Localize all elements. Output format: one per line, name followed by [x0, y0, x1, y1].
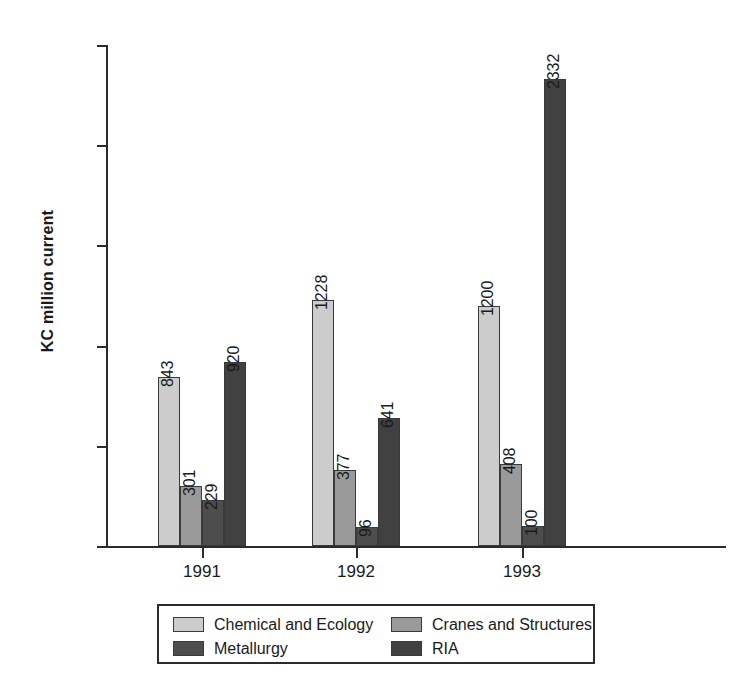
- legend-item[interactable]: Cranes and Structures: [391, 616, 583, 633]
- legend-item[interactable]: Chemical and Ecology: [173, 616, 391, 633]
- legend-label: Metallurgy: [214, 640, 288, 657]
- x-axis-tick: [356, 548, 358, 558]
- bar: [334, 470, 356, 546]
- y-axis-tick: [97, 346, 106, 348]
- bar: [378, 418, 400, 546]
- bar: [224, 362, 246, 546]
- bar-value-label: 1228: [314, 275, 330, 310]
- legend-label: Cranes and Structures: [432, 616, 592, 633]
- y-axis-line: [106, 45, 108, 548]
- legend-item[interactable]: Metallurgy: [173, 640, 391, 657]
- bar-value-label: 1200: [480, 280, 496, 315]
- bar: [158, 377, 180, 546]
- bar-value-label: 2332: [546, 53, 562, 88]
- bar-value-label: 641: [380, 401, 396, 427]
- x-axis-tick: [202, 548, 204, 558]
- legend-label: Chemical and Ecology: [214, 616, 373, 633]
- x-axis-tick-label: 1992: [311, 562, 401, 582]
- legend-swatch: [391, 617, 422, 632]
- bar: [312, 300, 334, 546]
- y-axis-title: KC million current: [39, 171, 57, 391]
- y-axis-tick: [97, 145, 106, 147]
- legend-swatch: [173, 617, 204, 632]
- bar-value-label: 377: [336, 454, 352, 480]
- y-axis-tick: [97, 45, 106, 47]
- bar-chart: KC million current 05001000150020002500 …: [0, 0, 748, 681]
- bar: [544, 79, 566, 546]
- bar-value-label: 408: [502, 448, 518, 474]
- legend-label: RIA: [432, 640, 459, 657]
- bar: [478, 306, 500, 546]
- legend-entries: Chemical and EcologyCranes and Structure…: [173, 612, 583, 660]
- y-axis-tick: [97, 446, 106, 448]
- x-axis-line: [106, 546, 726, 548]
- bar: [500, 464, 522, 546]
- bar-value-label: 920: [226, 345, 242, 371]
- y-axis-tick: [97, 546, 106, 548]
- legend-item[interactable]: RIA: [391, 640, 583, 657]
- plot-area: 05001000150020002500 199119921993 843301…: [106, 45, 726, 547]
- legend-swatch: [173, 641, 204, 656]
- bar-value-label: 96: [358, 519, 374, 537]
- legend: Chemical and EcologyCranes and Structure…: [157, 604, 595, 664]
- legend-swatch: [391, 641, 422, 656]
- x-axis-tick: [522, 548, 524, 558]
- x-axis-tick-label: 1991: [157, 562, 247, 582]
- bar-value-label: 229: [204, 484, 220, 510]
- x-axis-tick-label: 1993: [477, 562, 567, 582]
- bar-value-label: 843: [160, 361, 176, 387]
- bar-value-label: 100: [524, 510, 540, 536]
- y-axis-tick: [97, 245, 106, 247]
- bar-value-label: 301: [182, 469, 198, 495]
